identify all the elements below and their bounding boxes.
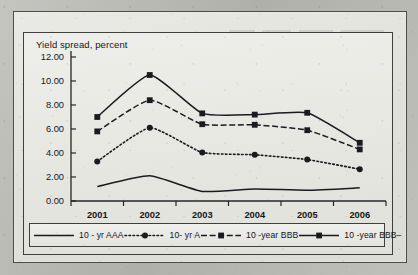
data-point-marker [147,97,153,103]
data-point-marker [94,129,100,135]
legend-swatch-dotted-circle-icon [124,230,166,241]
y-tick-label: 12.00 [41,52,64,62]
legend-item-3[interactable]: 10 -year BBB [200,230,298,241]
data-point-marker [252,112,258,118]
series-line [97,100,360,149]
data-point-marker [147,125,153,131]
data-point-marker [304,157,310,163]
data-point-marker [94,158,100,164]
x-tick-label: 2001 [87,210,108,220]
data-point-marker [357,147,363,153]
legend-label: 10 -year BBB– [344,230,401,240]
x-tick-label: 2003 [192,210,213,220]
scanned-page-background: Yield spread, percent 12.0010.008.006.00… [0,0,418,275]
data-point-marker [252,152,258,158]
y-tick-label: 4.00 [46,148,64,158]
chart-container: Yield spread, percent 12.0010.008.006.00… [23,32,393,255]
data-point-marker [304,110,310,116]
series-line [97,128,360,169]
x-tick-label: 2005 [297,210,318,220]
y-tick-label: 0.00 [46,196,64,206]
legend-label: 10 -year BBB [246,230,298,240]
x-tick-label: 2004 [244,210,266,220]
line-chart-plot: 12.0010.008.006.004.002.000.002001200220… [24,33,392,254]
legend-swatch-solid-icon [33,230,75,241]
y-tick-label: 6.00 [46,124,64,134]
data-point-marker [147,72,153,78]
legend-label: 10- yr A [170,230,200,240]
series-2 [94,125,363,172]
data-point-marker [357,140,363,146]
y-tick-label: 2.00 [46,172,64,182]
series-3 [94,97,362,152]
x-tick-label: 2002 [139,210,160,220]
data-point-marker [252,122,258,128]
data-point-marker [199,121,205,127]
y-tick-label: 8.00 [46,100,64,110]
legend-item-2[interactable]: 10- yr A [124,230,200,241]
legend-swatch-solid-square-icon [298,230,340,241]
figure-outer-frame: Yield spread, percent 12.0010.008.006.00… [13,11,407,263]
data-point-marker [199,149,205,155]
chart-legend: 10 - yr AAA10- yr A10 -year BBB10 -year … [29,223,385,247]
series-1 [97,176,360,192]
x-tick-label: 2006 [349,210,370,220]
legend-item-4[interactable]: 10 -year BBB– [298,230,401,241]
legend-swatch-dashed-square-icon [200,230,242,241]
legend-label: 10 - yr AAA [79,230,124,240]
legend-item-1[interactable]: 10 - yr AAA [33,230,124,241]
data-point-marker [304,127,310,133]
data-point-marker [357,166,363,172]
data-point-marker [94,114,100,120]
series-line [97,176,360,192]
series-line [97,75,360,143]
data-point-marker [199,111,205,117]
y-tick-label: 10.00 [41,76,64,86]
